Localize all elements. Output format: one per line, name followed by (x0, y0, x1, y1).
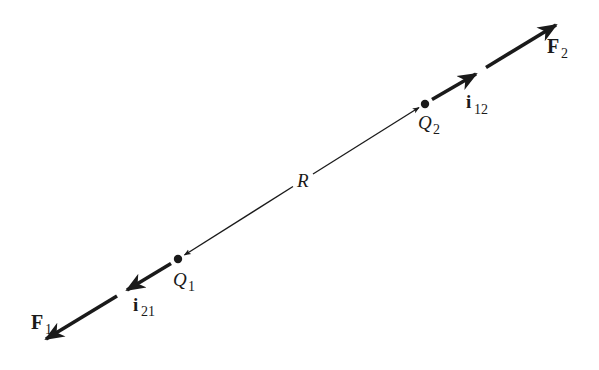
charge-q1-subscript: 1 (188, 279, 195, 294)
unit-vector-i12-subscript: 12 (474, 102, 488, 117)
charge-q1-symbol: Q (173, 269, 187, 290)
unit-vector-i21-label: i 21 (133, 294, 155, 319)
force-f2-symbol: F (547, 35, 559, 57)
coulomb-force-diagram: R Q 2 Q 1 i 12 i 21 F 2 F 1 (0, 0, 599, 370)
unit-vector-i12-symbol: i (466, 91, 471, 112)
force-f1-label: F 1 (31, 311, 52, 337)
unit-vector-i21-symbol: i (133, 294, 138, 315)
unit-vector-i21-arrow (127, 264, 171, 291)
charge-q2-label: Q 2 (418, 112, 440, 137)
unit-vector-i12-label: i 12 (466, 91, 488, 117)
charge-q2-subscript: 2 (433, 122, 440, 137)
charge-q2-symbol: Q (418, 112, 432, 133)
separation-line-upper (313, 108, 419, 175)
charge-q1-label: Q 1 (173, 269, 195, 294)
force-f1-arrow (46, 296, 117, 339)
separation-line-lower (185, 187, 294, 256)
force-f1-subscript: 1 (45, 322, 52, 337)
force-f2-arrow (486, 25, 556, 68)
unit-vector-i21-subscript: 21 (141, 304, 155, 319)
force-f1-symbol: F (31, 311, 43, 333)
charge-q2-dot (421, 100, 429, 108)
separation-label: R (296, 170, 309, 191)
force-f2-label: F 2 (547, 35, 568, 61)
charge-q1-dot (174, 255, 182, 263)
force-f2-subscript: 2 (561, 46, 568, 61)
